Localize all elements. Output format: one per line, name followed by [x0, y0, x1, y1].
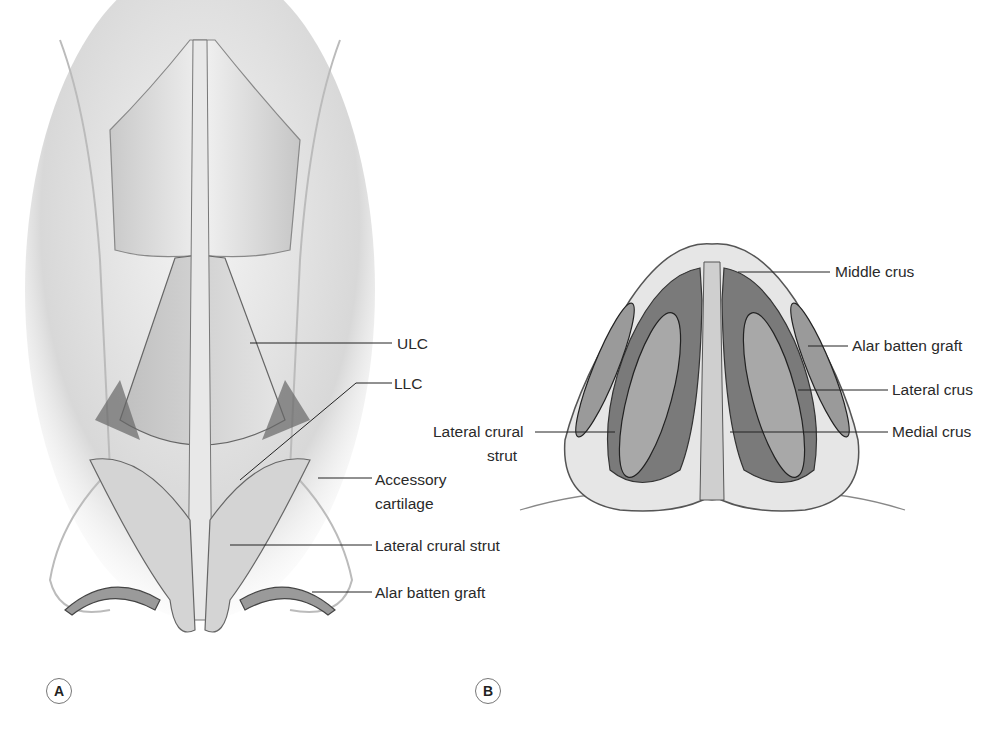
- basal-view-nose: [520, 244, 905, 511]
- label-alar-batten-graft-b: Alar batten graft: [852, 336, 962, 355]
- label-accessory-cartilage-line1: Accessory: [375, 470, 447, 489]
- panel-letter-a: A: [46, 678, 72, 704]
- label-lateral-crus: Lateral crus: [892, 380, 973, 399]
- label-alar-batten-graft-a: Alar batten graft: [375, 583, 485, 602]
- label-lateral-crural-strut-b-line2: strut: [487, 446, 517, 465]
- label-medial-crus: Medial crus: [892, 422, 971, 441]
- frontal-view-nose: [25, 0, 375, 632]
- label-lateral-crural-strut-b-line1: Lateral crural: [433, 422, 523, 441]
- panel-letter-b: B: [475, 678, 501, 704]
- label-lateral-crural-strut-a: Lateral crural strut: [375, 536, 500, 555]
- nasal-anatomy-illustration: [0, 0, 1001, 737]
- label-middle-crus: Middle crus: [835, 262, 914, 281]
- label-accessory-cartilage-line2: cartilage: [375, 494, 434, 513]
- label-ulc: ULC: [397, 334, 428, 353]
- label-llc: LLC: [394, 374, 422, 393]
